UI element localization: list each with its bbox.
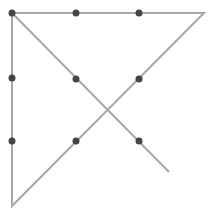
dot-3 bbox=[136, 10, 143, 17]
dot-5 bbox=[73, 76, 80, 83]
dot-6 bbox=[136, 76, 143, 83]
dot-2 bbox=[73, 10, 80, 17]
dot-7 bbox=[9, 138, 16, 145]
dot-8 bbox=[73, 138, 80, 145]
connecting-lines bbox=[12, 13, 204, 206]
dot-4 bbox=[9, 75, 16, 82]
solution-path bbox=[12, 13, 204, 206]
dot-9 bbox=[136, 138, 143, 145]
nine-dots-diagram bbox=[0, 0, 209, 215]
dot-1 bbox=[9, 10, 16, 17]
